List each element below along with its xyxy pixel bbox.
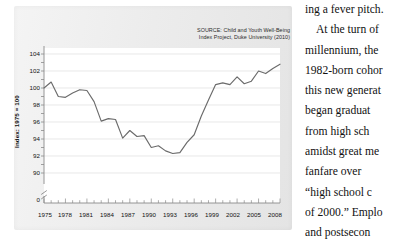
body-line-2: millennium, the bbox=[305, 41, 398, 61]
body-line-7: amidst great me bbox=[305, 142, 398, 162]
body-line-5: began graduat bbox=[305, 101, 398, 121]
gridlines bbox=[44, 54, 280, 173]
body-line-11: and postsecon bbox=[305, 223, 398, 242]
x-axis-ticks bbox=[44, 199, 280, 204]
body-line-6: from high sch bbox=[305, 122, 398, 142]
body-line-8: fanfare over bbox=[305, 162, 398, 182]
body-text-column: ing a fever pitch. At the turn of millen… bbox=[305, 0, 398, 242]
body-line-3: 1982-born cohor bbox=[305, 61, 398, 81]
body-line-1: At the turn of bbox=[305, 20, 398, 40]
body-line-4: this new generat bbox=[305, 81, 398, 101]
body-line-10: of 2000.” Emplo bbox=[305, 203, 398, 223]
figure-panel: SOURCE: Child and Youth Well-Being Index… bbox=[0, 0, 298, 236]
series-line-child-youth-well-being bbox=[44, 64, 280, 153]
body-line-9: “high school c bbox=[305, 183, 398, 203]
page-root: SOURCE: Child and Youth Well-Being Index… bbox=[0, 0, 398, 242]
body-line-0: ing a fever pitch. bbox=[305, 0, 398, 20]
axis-break-mark-upper bbox=[41, 191, 47, 195]
chart-svg bbox=[0, 0, 298, 236]
